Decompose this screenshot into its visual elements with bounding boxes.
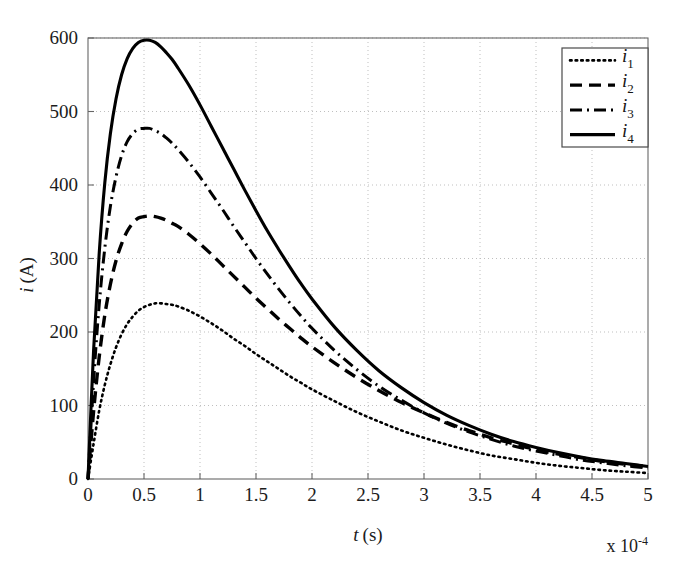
x-tick-label: 4.5 [580, 484, 604, 505]
x-tick-label: 5 [643, 484, 653, 505]
x-tick-label: 3 [419, 484, 429, 505]
y-tick-label: 600 [50, 27, 79, 48]
y-tick-label: 100 [50, 395, 79, 416]
legend-box[interactable]: i1i2i3i4 [562, 45, 648, 147]
x-tick-label: 4 [531, 484, 541, 505]
x-tick-label: 1.5 [244, 484, 268, 505]
current-vs-time-chart: 00.511.522.533.544.550100200300400500600… [0, 0, 693, 573]
y-tick-label: 300 [50, 248, 79, 269]
x-tick-label: 2 [307, 484, 317, 505]
y-tick-label: 500 [50, 101, 79, 122]
x-tick-label: 3.5 [468, 484, 492, 505]
y-tick-label: 0 [69, 468, 79, 489]
y-tick-label: 400 [50, 174, 79, 195]
x-tick-label: 1 [195, 484, 205, 505]
x-axis-title: t(s) [353, 524, 382, 546]
x-tick-label: 0.5 [132, 484, 156, 505]
y-tick-label: 200 [50, 321, 79, 342]
figure-page: 00.511.522.533.544.550100200300400500600… [0, 0, 693, 573]
x-tick-label: 0 [83, 484, 93, 505]
legend-frame[interactable] [562, 48, 648, 147]
x-tick-label: 2.5 [356, 484, 380, 505]
